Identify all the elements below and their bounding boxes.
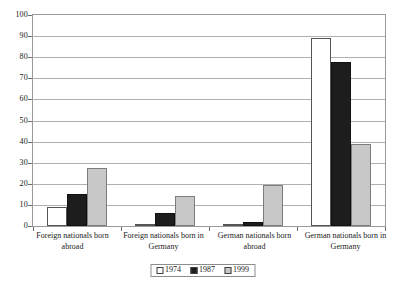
y-axis-tick-label: 90 [4, 32, 28, 40]
bar-group [297, 15, 385, 226]
bar-1974-2 [135, 224, 155, 226]
y-axis-tick-label: 30 [4, 159, 28, 167]
bar-1987-4 [331, 62, 351, 226]
y-axis-tick-label: 60 [4, 95, 28, 103]
bar-group [121, 15, 209, 226]
bar-group [33, 15, 121, 226]
bars-layer [33, 15, 385, 226]
legend-swatch-1987 [190, 267, 197, 274]
y-axis-tick-label: 50 [4, 117, 28, 125]
legend-item-1987: 1987 [190, 266, 215, 274]
bar-1987-3 [243, 222, 263, 226]
y-axis-tick-label: 40 [4, 138, 28, 146]
y-axis-tick-label: 70 [4, 74, 28, 82]
legend-label-1974: 1974 [165, 266, 181, 274]
bar-1999-3 [263, 185, 283, 226]
category-label-1: Foreign nationals born abroad [27, 231, 118, 252]
y-axis-tick-label: 80 [4, 53, 28, 61]
y-axis-tick-label: 100 [4, 11, 28, 19]
bar-1974-3 [223, 224, 243, 226]
bar-1974-1 [47, 207, 67, 226]
bar-group [209, 15, 297, 226]
legend-label-1999: 1999 [233, 266, 249, 274]
chart-legend: 197419871999 [150, 264, 255, 277]
bar-1999-2 [175, 196, 195, 226]
y-axis-tick-label: 0 [4, 222, 28, 230]
y-axis-tick-label: 10 [4, 201, 28, 209]
legend-item-1999: 1999 [224, 266, 249, 274]
bar-1999-4 [351, 144, 371, 226]
legend-label-1987: 1987 [199, 266, 215, 274]
category-label-3: German nationals born abroad [209, 231, 300, 252]
y-axis-tick-label: 20 [4, 180, 28, 188]
legend-swatch-1999 [224, 267, 231, 274]
bar-1999-1 [87, 168, 107, 226]
legend-item-1974: 1974 [156, 266, 181, 274]
bar-1987-1 [67, 194, 87, 226]
category-labels: Foreign nationals born abroadForeign nat… [27, 231, 391, 252]
category-label-2: Foreign nationals born in Germany [118, 231, 209, 252]
bar-1974-4 [311, 38, 331, 226]
legend-swatch-1974 [156, 267, 163, 274]
category-label-4: German nationals born in Germany [300, 231, 391, 252]
bar-chart: 1009080706050403020100 Foreign nationals… [0, 0, 405, 292]
bar-1987-2 [155, 213, 175, 226]
